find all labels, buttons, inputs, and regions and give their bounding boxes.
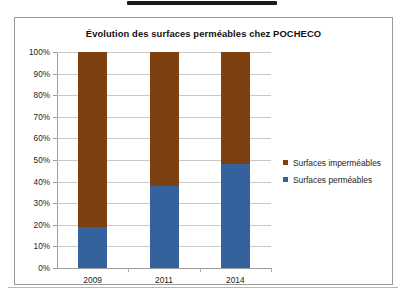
bar-segment[interactable] [78,227,107,268]
legend-swatch-icon [283,160,288,165]
y-axis-tick-label: 10% [34,242,50,251]
legend-item-label: Surfaces imperméables [293,158,381,168]
y-axis-tick-mark [53,160,57,161]
y-axis-tick-label: 90% [34,69,50,78]
y-axis-tick-label: 70% [34,112,50,121]
bar-segment[interactable] [150,186,179,268]
scan-artifact-bottom-rule [8,287,398,288]
y-axis-tick-mark [53,182,57,183]
x-axis-category-label: 2011 [155,275,173,285]
x-axis-category-label: 2009 [83,275,102,285]
legend-item-label: Surfaces perméables [293,175,372,185]
y-axis-tick-label: 60% [34,134,50,143]
gridline [57,268,271,269]
bar-segment[interactable] [78,52,107,227]
y-axis-tick-mark [53,268,57,269]
scan-artifact-top-bar [127,1,277,5]
y-axis-tick-mark [53,225,57,226]
bar-segment[interactable] [221,164,250,268]
y-axis-tick-label: 30% [34,199,50,208]
x-axis-tick-mark [128,268,129,272]
y-axis-tick-mark [53,203,57,204]
chart-legend: Surfaces imperméablesSurfaces perméables [283,154,381,188]
y-axis-tick-label: 20% [34,220,50,229]
bar-segment[interactable] [150,52,179,186]
y-axis-tick-mark [53,138,57,139]
y-axis-tick-label: 80% [34,91,50,100]
x-axis-tick-mark [271,268,272,272]
x-axis-tick-mark [200,268,201,272]
y-axis-tick-mark [53,95,57,96]
legend-swatch-icon [283,177,288,182]
legend-item[interactable]: Surfaces perméables [283,171,381,188]
y-axis-tick-mark [53,246,57,247]
y-axis-tick-label: 40% [34,177,50,186]
y-axis-tick-label: 100% [29,48,50,57]
chart-container: Évolution des surfaces perméables chez P… [14,17,393,285]
y-axis-tick-label: 50% [34,156,50,165]
legend-item[interactable]: Surfaces imperméables [283,154,381,171]
y-axis-tick-mark [53,117,57,118]
plot-area: 0%10%20%30%40%50%60%70%80%90%100% 200920… [57,52,271,268]
x-axis-category-label: 2014 [226,275,245,285]
y-axis-tick-mark [53,74,57,75]
chart-title: Évolution des surfaces perméables chez P… [15,28,392,39]
bar-segment[interactable] [221,52,250,164]
y-axis-tick-mark [53,52,57,53]
y-axis-tick-label: 0% [38,264,50,273]
